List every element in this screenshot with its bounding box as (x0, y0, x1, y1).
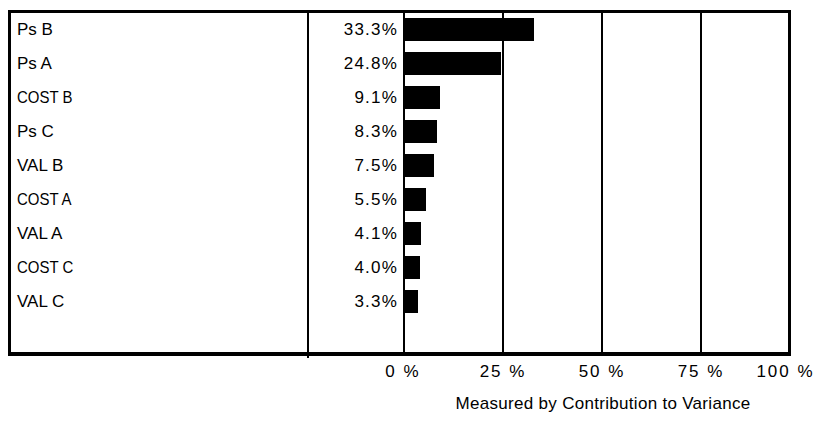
x-axis-caption: Measured by Contribution to Variance (403, 393, 803, 415)
x-axis-tick-75 (700, 346, 702, 354)
bar-row: VAL A4.1% (0, 217, 823, 251)
bar-row: COST B9.1% (0, 81, 823, 115)
bar (405, 154, 434, 177)
x-axis-tick-label-50: 50 % (567, 362, 637, 382)
category-label: VAL B (17, 156, 63, 176)
bar (405, 120, 437, 143)
value-label: 9.1% (318, 88, 398, 108)
category-label: VAL C (17, 292, 64, 312)
value-label: 8.3% (318, 122, 398, 142)
x-axis-tick-50 (601, 346, 603, 354)
category-label: COST A (17, 190, 72, 210)
bar-row: COST C4.0% (0, 251, 823, 285)
value-label: 4.1% (318, 224, 398, 244)
category-label: COST B (17, 88, 72, 108)
x-axis-tick-label-100: 100 % (748, 362, 823, 382)
value-label: 7.5% (318, 156, 398, 176)
x-axis-tick-0 (403, 346, 405, 354)
bar-row: Ps A24.8% (0, 47, 823, 81)
bar (405, 188, 426, 211)
bar-track (405, 52, 791, 75)
x-axis-line (8, 353, 791, 356)
bar-row: COST A5.5% (0, 183, 823, 217)
bar-track (405, 86, 791, 109)
bar-row: VAL C3.3% (0, 285, 823, 319)
bar (405, 222, 421, 245)
bar (405, 52, 501, 75)
category-label: COST C (17, 258, 73, 278)
value-label: 3.3% (318, 292, 398, 312)
bar-rows: Ps B33.3%Ps A24.8%COST B9.1%Ps C8.3%VAL … (0, 13, 823, 319)
x-axis-tick-label-25: 25 % (468, 362, 538, 382)
value-label: 4.0% (318, 258, 398, 278)
x-axis-tick-25 (502, 346, 504, 354)
bar-track (405, 222, 791, 245)
x-axis-tick-100 (789, 346, 791, 354)
bar-track (405, 18, 791, 41)
bar-row: Ps B33.3% (0, 13, 823, 47)
bar-track (405, 120, 791, 143)
category-label: Ps A (17, 54, 52, 74)
category-label: Ps C (17, 122, 54, 142)
value-label: 24.8% (318, 54, 398, 74)
bar-row: VAL B7.5% (0, 149, 823, 183)
bar-track (405, 154, 791, 177)
bar-track (405, 290, 791, 313)
category-label: Ps B (17, 20, 53, 40)
bar-track (405, 256, 791, 279)
bar (405, 18, 534, 41)
x-axis-tick-label-0: 0 % (373, 362, 433, 382)
x-axis-tick-label-75: 75 % (666, 362, 736, 382)
bar (405, 86, 440, 109)
value-label: 5.5% (318, 190, 398, 210)
value-label: 33.3% (318, 20, 398, 40)
bar-row: Ps C8.3% (0, 115, 823, 149)
bar (405, 256, 420, 279)
bar-track (405, 188, 791, 211)
bar (405, 290, 418, 313)
category-label: VAL A (17, 224, 62, 244)
